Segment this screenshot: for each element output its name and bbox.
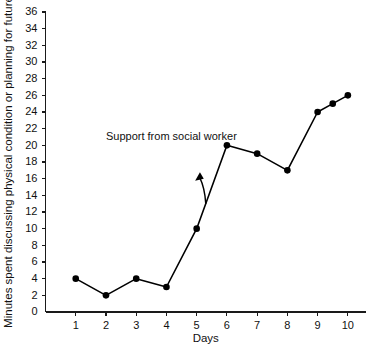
y-axis-tick-label: 28 (25, 72, 37, 84)
line-chart: 024681012141618202224262830323436 123456… (0, 0, 377, 356)
data-point-marker (163, 284, 170, 291)
data-point-marker (314, 109, 321, 116)
data-point-marker (345, 92, 352, 99)
y-axis-tick-label: 36 (25, 5, 37, 17)
y-axis-tick-label: 14 (25, 189, 37, 201)
chart-canvas: 024681012141618202224262830323436 123456… (0, 0, 377, 356)
y-axis-tick-label: 34 (25, 22, 37, 34)
y-axis-title: Minutes spent discussing physical condit… (2, 0, 14, 328)
data-point-marker (284, 167, 291, 174)
data-point-marker (329, 100, 336, 107)
data-point-marker (72, 275, 79, 282)
y-axis-tick-label: 4 (31, 272, 37, 284)
y-axis-tick-label: 24 (25, 105, 37, 117)
y-axis-tick-label: 32 (25, 39, 37, 51)
data-point-marker (254, 150, 261, 157)
x-axis-tick-label: 5 (194, 319, 200, 331)
x-axis-tick-label: 3 (133, 319, 139, 331)
x-axis-tick-label: 1 (73, 319, 79, 331)
y-axis-tick-label: 18 (25, 155, 37, 167)
x-axis-tick-label: 7 (254, 319, 260, 331)
y-axis-tick-label: 22 (25, 122, 37, 134)
x-axis-tick-label: 9 (315, 319, 321, 331)
y-axis-tick-label: 2 (31, 289, 37, 301)
y-axis-tick-label: 30 (25, 55, 37, 67)
y-axis-tick-label: 6 (31, 255, 37, 267)
y-axis-tick-label: 10 (25, 222, 37, 234)
chart-background (0, 0, 377, 356)
y-axis-tick-label: 16 (25, 172, 37, 184)
x-axis-tick-label: 10 (342, 319, 354, 331)
x-axis-tick-label: 6 (224, 319, 230, 331)
data-point-marker (193, 225, 200, 232)
x-axis-title: Days (193, 332, 219, 344)
y-axis-tick-label: 12 (25, 205, 37, 217)
x-axis-tick-label: 2 (103, 319, 109, 331)
y-axis-tick-label: 20 (25, 139, 37, 151)
data-point-marker (224, 142, 231, 149)
annotation-label: Support from social worker (106, 130, 237, 142)
data-point-marker (133, 275, 140, 282)
y-axis-tick-label: 26 (25, 89, 37, 101)
y-axis-tick-label: 8 (31, 239, 37, 251)
x-axis-tick-label: 4 (163, 319, 169, 331)
y-axis-tick-label: 0 (31, 305, 37, 317)
x-axis-tick-label: 8 (284, 319, 290, 331)
data-point-marker (103, 292, 110, 299)
